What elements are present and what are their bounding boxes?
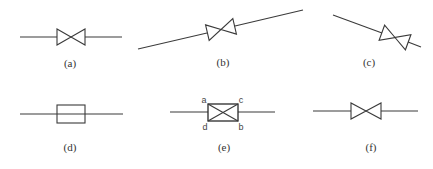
caption-c: (c) <box>363 56 376 69</box>
panel-b: (b) <box>138 10 303 69</box>
valve-triangle-right <box>219 19 236 38</box>
pipe-line-right <box>408 42 421 47</box>
corner-label-b: b <box>238 122 243 132</box>
caption-a: (a) <box>64 57 77 70</box>
pipe-line-left <box>138 33 207 49</box>
panel-c: (c) <box>333 15 421 69</box>
corner-label-d: d <box>202 122 207 132</box>
caption-d: (d) <box>64 141 77 154</box>
valve-triangle-left <box>57 29 71 45</box>
gate-valve-symbol <box>379 25 411 50</box>
pipe-line-left <box>333 15 382 33</box>
valve-triangle-left <box>206 22 223 41</box>
corner-label-c: c <box>239 95 244 105</box>
corner-label-a: a <box>201 95 206 105</box>
caption-b: (b) <box>217 56 230 69</box>
pipe-line-right <box>235 10 303 26</box>
valve-symbols-diagram: (a) (b) (c) (d) a c d b ( <box>0 0 433 169</box>
gate-valve-symbol <box>206 19 237 41</box>
panel-d: (d) <box>20 105 123 154</box>
caption-f: (f) <box>366 141 377 154</box>
panel-f: (f) <box>313 103 418 154</box>
valve-triangle-left <box>351 103 366 119</box>
caption-e: (e) <box>218 141 231 154</box>
panel-e: a c d b (e) <box>170 95 275 154</box>
valve-triangle-right <box>366 103 381 119</box>
valve-triangle-left <box>379 25 398 45</box>
valve-triangle-right <box>71 29 85 45</box>
valve-triangle-right <box>392 30 411 50</box>
panel-a: (a) <box>20 29 122 70</box>
